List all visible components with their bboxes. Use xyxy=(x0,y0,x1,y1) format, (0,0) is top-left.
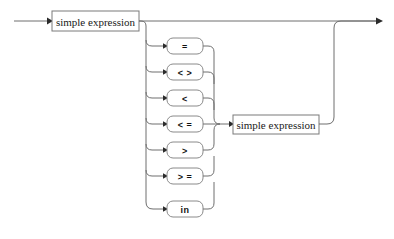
syntax-diagram: simple expression = < > < < = > xyxy=(0,0,394,239)
right-collect-gt xyxy=(203,124,220,150)
railroad-canvas: simple expression = < > < < = > xyxy=(0,0,394,239)
right-collect-in xyxy=(203,182,214,209)
op-ne-label: < > xyxy=(178,68,193,78)
left-simple-expression-label: simple expression xyxy=(56,16,136,28)
op-in-label: in xyxy=(181,205,190,215)
right-collect-ge xyxy=(203,156,214,176)
right-collect-eq xyxy=(203,46,220,124)
right-collect-lt xyxy=(203,98,214,110)
left-stub-gt xyxy=(146,144,163,150)
op-lt-label: < xyxy=(182,94,188,104)
left-stub-lt xyxy=(146,92,163,98)
left-trunk-rail xyxy=(139,21,153,209)
op-ge-label: > = xyxy=(178,172,193,182)
left-stub-ne xyxy=(146,66,163,72)
op-le-label: < = xyxy=(178,120,193,130)
left-stub-le xyxy=(146,118,163,124)
right-simple-expression-label: simple expression xyxy=(236,119,316,131)
return-rail xyxy=(319,21,376,124)
left-stub-eq xyxy=(146,40,163,46)
right-collect-ne xyxy=(203,72,214,84)
op-gt-label: > xyxy=(182,146,188,156)
op-eq-label: = xyxy=(182,42,188,52)
left-stub-ge xyxy=(146,170,163,176)
exit-arrow-icon xyxy=(376,18,383,25)
